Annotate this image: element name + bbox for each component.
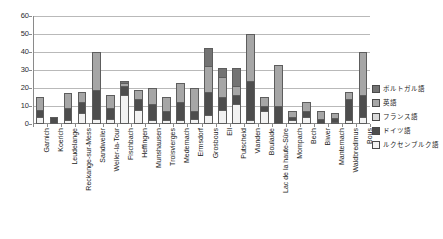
x-tick-label: Koerich (57, 128, 64, 152)
bar-group (176, 16, 185, 124)
bar-stack (92, 52, 101, 124)
bar-segment (134, 99, 143, 110)
x-tick-label-wrap: Sandweiler (96, 128, 103, 163)
bar-stack (232, 68, 241, 124)
legend-item[interactable]: フランス語 (372, 110, 443, 124)
bar-segment (204, 115, 213, 124)
x-tick-label: Boulaide (267, 128, 274, 155)
bar-segment (302, 102, 311, 111)
x-tick-label-wrap: Bous (363, 128, 370, 144)
x-tick-label-wrap: Ell (223, 128, 230, 136)
x-tick-label-wrap: Fischbach (124, 128, 131, 160)
bar-stack (246, 34, 255, 124)
bar-stack (106, 95, 115, 124)
x-tick-label: Medernach (183, 128, 190, 163)
x-tick-mark (75, 124, 76, 127)
bar-stack (204, 48, 213, 124)
x-tick-label-wrap: Putscheid (237, 128, 244, 159)
y-tick-mark (29, 124, 32, 125)
x-tick-label-wrap: Medernach (180, 128, 187, 163)
bar-segment (64, 93, 73, 107)
x-tick-label: Manternach (337, 128, 344, 165)
x-tick-label-wrap: Biwer (321, 128, 328, 146)
bar-group (78, 16, 87, 124)
bar-segment (204, 92, 213, 115)
x-tick-label: Bech (309, 128, 316, 144)
bar-group (260, 16, 269, 124)
bar-segment (274, 65, 283, 106)
bar-segment (246, 34, 255, 81)
bar-stack (64, 93, 73, 124)
x-tick-label: Biwer (323, 128, 330, 146)
x-tick-label-wrap: Leudelange (68, 128, 75, 165)
bar-group (317, 16, 326, 124)
legend-item[interactable]: ドイツ語 (372, 124, 443, 138)
bar-stack (317, 111, 326, 124)
x-tick-mark (159, 124, 160, 127)
legend-item[interactable]: ルクセンブルク語 (372, 138, 443, 152)
x-tick-mark (356, 124, 357, 127)
x-tick-label: Reckange-sur-Mess (85, 128, 92, 191)
bar-segment (134, 110, 143, 124)
x-tick-label-wrap: Weiler-la-Tour (110, 128, 117, 171)
bar-stack (260, 97, 269, 124)
legend-label: フランス語 (383, 114, 418, 121)
bar-group (302, 16, 311, 124)
y-tick-mark (29, 34, 32, 35)
legend-label: ドイツ語 (383, 128, 411, 135)
bars-layer (33, 16, 370, 124)
bar-group (36, 16, 45, 124)
x-tick-mark (272, 124, 273, 127)
x-tick-label: Sandweiler (99, 128, 106, 163)
x-axis-labels: GarnichKoerichLeudelangeReckange-sur-Mes… (33, 128, 370, 236)
bar-stack (176, 83, 185, 124)
x-tick-label-wrap: Ermsdorf (194, 128, 201, 156)
bar-stack (288, 111, 297, 124)
legend-swatch (372, 141, 380, 149)
bar-segment (176, 102, 185, 120)
x-tick-label-wrap: Koerich (54, 128, 61, 152)
bar-segment (345, 92, 354, 99)
bar-segment (120, 95, 129, 124)
x-tick-label: Munshausen (155, 128, 162, 168)
x-axis-ticks (33, 124, 370, 127)
bar-segment (120, 86, 129, 95)
x-tick-mark (244, 124, 245, 127)
bar-segment (317, 111, 326, 118)
x-tick-label-wrap: Garnich (40, 128, 47, 153)
bar-segment (92, 52, 101, 90)
bar-segment (78, 102, 87, 113)
x-tick-label-wrap: Grosbous (209, 128, 216, 158)
bar-group (134, 16, 143, 124)
x-tick-label: Grosbous (211, 128, 218, 158)
legend-item[interactable]: 英語 (372, 96, 443, 110)
x-tick-label: Ermsdorf (197, 128, 204, 156)
x-tick-label-wrap: Manternach (335, 128, 342, 165)
x-tick-mark (131, 124, 132, 127)
bar-group (190, 16, 199, 124)
bar-group (106, 16, 115, 124)
legend-item[interactable]: ポルトガル語 (372, 82, 443, 96)
x-tick-label: Waldbredimus (351, 128, 358, 172)
bar-segment (218, 97, 227, 110)
x-tick-label-wrap: Boulaide (265, 128, 272, 155)
legend-label: ルクセンブルク語 (383, 142, 439, 149)
bar-group (246, 16, 255, 124)
bar-stack (274, 65, 283, 124)
bar-stack (36, 97, 45, 124)
x-tick-mark (286, 124, 287, 127)
x-tick-label: Heffingen (141, 128, 148, 158)
x-tick-label-wrap: Mompach (293, 128, 300, 159)
bar-group (345, 16, 354, 124)
bar-segment (204, 48, 213, 66)
bar-group (204, 16, 213, 124)
bar-segment (190, 111, 199, 118)
bar-segment (232, 104, 241, 124)
bar-group (218, 16, 227, 124)
x-tick-mark (230, 124, 231, 127)
x-tick-label-wrap: Bech (307, 128, 314, 144)
bar-segment (260, 97, 269, 106)
y-tick-label: 10 (5, 102, 29, 110)
bar-segment (148, 104, 157, 120)
x-tick-mark (103, 124, 104, 127)
